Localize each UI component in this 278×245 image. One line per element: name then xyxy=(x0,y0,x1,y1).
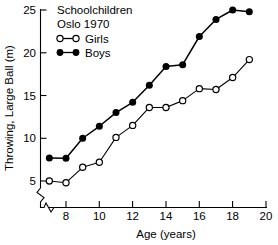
x-axis-ticks xyxy=(66,201,266,208)
y-tick-label-5: 5 xyxy=(30,175,36,187)
data-point-girls-age-8 xyxy=(63,180,69,186)
data-point-boys-age-10 xyxy=(96,123,103,130)
series-line-girls xyxy=(49,60,249,183)
legend-item-girls: Girls xyxy=(57,33,109,45)
x-tick-label-20: 20 xyxy=(260,210,273,222)
legend-label-girls: Girls xyxy=(85,33,109,45)
data-point-boys-age-19 xyxy=(246,8,253,15)
y-axis xyxy=(37,9,44,208)
legend-item-boys: Boys xyxy=(57,47,111,59)
y-tick-label-10: 10 xyxy=(23,132,36,144)
y-axis-title: Throwing, Large Ball (m) xyxy=(3,45,15,171)
y-tick-label-15: 15 xyxy=(23,90,36,102)
data-point-girls-age-19 xyxy=(246,56,252,62)
x-tick-label-18: 18 xyxy=(226,210,239,222)
y-tick-label-25: 25 xyxy=(23,4,36,16)
throwing-large-ball-chart: 25 20 15 10 5 8 10 12 14 16 18 20 Age (y… xyxy=(0,0,278,245)
y-tick-label-20: 20 xyxy=(23,47,36,59)
data-point-boys-age-18 xyxy=(229,7,236,14)
data-point-boys-age-12 xyxy=(129,99,136,106)
data-point-boys-age-7 xyxy=(46,154,53,161)
x-tick-label-12: 12 xyxy=(126,210,139,222)
legend-marker-filled-circle-icon-2 xyxy=(73,49,80,56)
data-point-girls-age-17 xyxy=(213,86,219,92)
data-point-boys-age-8 xyxy=(63,155,70,162)
data-point-girls-age-9 xyxy=(80,164,86,170)
legend: Girls Boys xyxy=(57,33,111,59)
legend-marker-filled-circle-icon xyxy=(57,49,64,56)
data-point-boys-age-9 xyxy=(79,135,86,142)
data-series-layer xyxy=(46,7,253,186)
data-point-boys-age-16 xyxy=(196,33,203,40)
x-tick-label-8: 8 xyxy=(63,210,69,222)
data-point-boys-age-11 xyxy=(113,109,120,116)
chart-canvas: 25 20 15 10 5 8 10 12 14 16 18 20 Age (y… xyxy=(0,0,278,245)
legend-marker-open-circle-icon-2 xyxy=(73,35,79,41)
data-point-boys-age-13 xyxy=(146,82,153,89)
series-girls xyxy=(46,56,252,185)
x-tick-label-14: 14 xyxy=(160,210,173,222)
data-point-girls-age-10 xyxy=(96,159,102,165)
data-point-boys-age-15 xyxy=(179,61,186,68)
data-point-boys-age-14 xyxy=(163,63,170,70)
data-point-girls-age-7 xyxy=(46,178,52,184)
x-axis-title: Age (years) xyxy=(136,228,196,240)
data-point-girls-age-16 xyxy=(196,86,202,92)
data-point-girls-age-14 xyxy=(163,104,169,110)
data-point-girls-age-18 xyxy=(230,74,236,80)
data-point-girls-age-12 xyxy=(130,122,136,128)
data-point-girls-age-15 xyxy=(180,98,186,104)
chart-title-line-1: Schoolchildren xyxy=(57,4,132,16)
x-axis-tick-labels: 8 10 12 14 16 18 20 xyxy=(63,210,273,222)
y-axis-tick-labels: 25 20 15 10 5 xyxy=(23,4,36,187)
legend-label-boys: Boys xyxy=(85,47,111,59)
x-tick-label-10: 10 xyxy=(93,210,106,222)
legend-marker-open-circle-icon xyxy=(57,35,63,41)
y-axis-ticks xyxy=(41,10,47,181)
x-tick-label-16: 16 xyxy=(193,210,206,222)
chart-title-line-2: Oslo 1970 xyxy=(57,18,109,30)
data-point-girls-age-13 xyxy=(146,104,152,110)
data-point-boys-age-17 xyxy=(213,16,220,23)
data-point-girls-age-11 xyxy=(113,134,119,140)
